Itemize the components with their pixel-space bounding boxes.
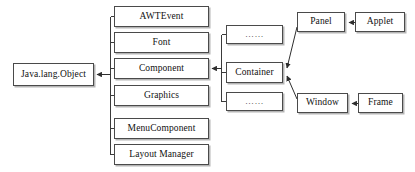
node-label: Graphics xyxy=(144,91,179,101)
node-java-lang-object[interactable]: Java.lang.Object xyxy=(13,63,94,86)
node-component[interactable]: Component xyxy=(114,58,209,79)
node-label: Layout Manager xyxy=(129,150,193,160)
node-graphics[interactable]: Graphics xyxy=(114,85,209,106)
node-menucomponent[interactable]: MenuComponent xyxy=(114,118,209,139)
node-frame[interactable]: Frame xyxy=(358,93,403,113)
node-layout-manager[interactable]: Layout Manager xyxy=(114,144,209,165)
node-label: Window xyxy=(306,98,339,108)
node-label: Java.lang.Object xyxy=(21,70,86,80)
node-ellipsis-top[interactable]: …… xyxy=(226,25,283,44)
node-label: Applet xyxy=(367,17,393,27)
node-label: Frame xyxy=(368,98,393,108)
node-label: Font xyxy=(153,38,171,48)
edge-panel-to-container xyxy=(287,27,297,68)
node-applet[interactable]: Applet xyxy=(355,12,405,32)
node-panel[interactable]: Panel xyxy=(297,12,345,32)
node-label: …… xyxy=(245,30,264,39)
node-label: Panel xyxy=(310,17,332,27)
class-hierarchy-diagram: Java.lang.Object AWTEvent Font Component… xyxy=(0,0,415,172)
node-container[interactable]: Container xyxy=(226,62,283,83)
node-ellipsis-bottom[interactable]: …… xyxy=(226,92,283,111)
node-window[interactable]: Window xyxy=(297,93,348,113)
node-label: …… xyxy=(245,97,264,106)
node-font[interactable]: Font xyxy=(114,32,209,53)
node-label: Container xyxy=(235,68,273,78)
node-awtevent[interactable]: AWTEvent xyxy=(114,6,209,27)
node-label: MenuComponent xyxy=(128,124,196,134)
node-label: AWTEvent xyxy=(140,12,184,22)
node-label: Component xyxy=(139,64,184,74)
edge-window-to-container xyxy=(287,76,297,99)
